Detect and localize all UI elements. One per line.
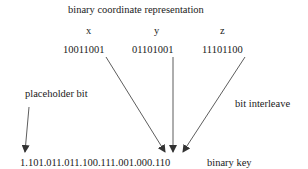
arrow-x-to-key [106,57,165,152]
arrow-z-to-key [183,57,245,152]
arrow-placeholder-bit [25,107,29,152]
arrows-layer [0,0,308,169]
